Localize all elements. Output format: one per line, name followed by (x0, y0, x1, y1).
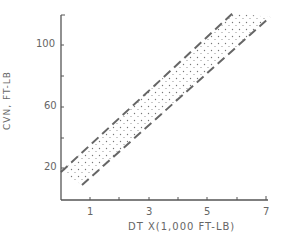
y-tick-label: 100 (36, 38, 55, 49)
x-tick-label: 5 (204, 206, 210, 217)
x-tick-label: 1 (87, 206, 93, 217)
x-axis-label: DT X(1,000 FT-LB) (128, 221, 235, 232)
scatter-band (61, 13, 270, 185)
upper-bound-line (61, 13, 233, 172)
y-tick-label: 60 (44, 100, 57, 111)
x-tick-label: 3 (146, 206, 152, 217)
y-axis-label: CVN, FT-LB (2, 45, 22, 155)
x-tick-label: 7 (263, 206, 269, 217)
chart-plot (0, 0, 283, 246)
y-tick-label: 20 (44, 161, 57, 172)
